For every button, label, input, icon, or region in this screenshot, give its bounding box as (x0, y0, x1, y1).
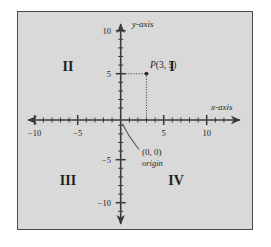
origin-coords-label: (0, 0) (142, 147, 162, 157)
x-tick-label-5: 5 (162, 128, 166, 138)
quadrant-two-label: II (63, 59, 74, 74)
plot-svg: −10 −5 5 10 10 5 −5 −10 y-axis x-axis I … (0, 0, 271, 247)
x-tick-label-neg5: −5 (73, 128, 82, 138)
coordinate-plane-figure: −10 −5 5 10 10 5 −5 −10 y-axis x-axis I … (0, 0, 271, 247)
quadrant-four-label: IV (168, 173, 184, 188)
point-p-coords: (3, 5) (156, 60, 177, 71)
x-tick-label-neg10: −10 (28, 128, 41, 138)
x-tick-label-10: 10 (202, 128, 211, 138)
quadrant-three-label: III (60, 173, 76, 188)
point-p-marker (145, 72, 149, 76)
origin-leader-line (123, 124, 140, 150)
y-tick-label-neg10: −10 (98, 198, 111, 208)
y-tick-label-10: 10 (103, 26, 112, 36)
y-tick-label-neg5: −5 (102, 155, 111, 165)
y-tick-label-5: 5 (107, 69, 111, 79)
x-axis-label: x-axis (210, 102, 233, 112)
y-axis-label: y-axis (131, 19, 154, 29)
point-p-label: P(3, 5) (149, 60, 176, 71)
origin-word-label: origin (142, 158, 163, 168)
